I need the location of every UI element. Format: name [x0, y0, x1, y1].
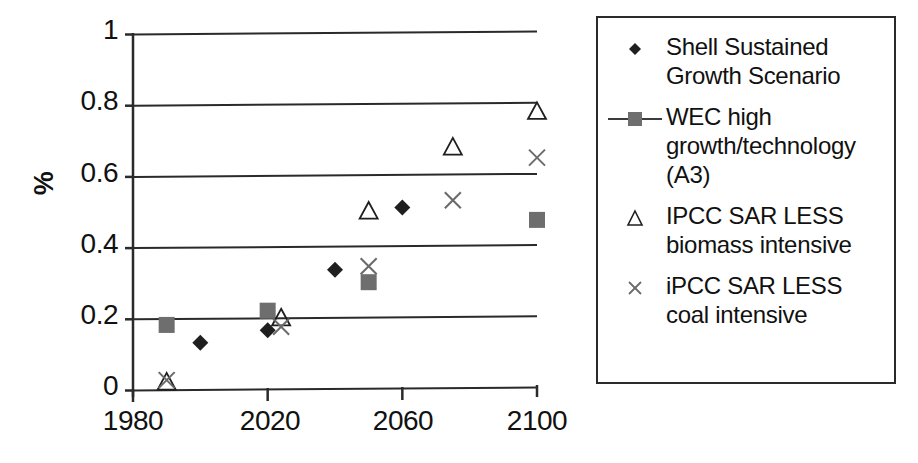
plot-area: % 1 0.8 0.6 0.4 0.2 0 1980 2020 2060 210… [0, 0, 580, 463]
data-point-square [529, 212, 545, 228]
x-tick-label-2020: 2020 [215, 405, 325, 437]
cross-marker-icon [604, 273, 666, 303]
data-point-triangle [528, 102, 546, 119]
gridlines [133, 32, 537, 391]
data-point-triangle [360, 202, 378, 219]
legend-label-ipcc-coal: iPCC SAR LESS coal intensive [666, 271, 888, 329]
gridline [133, 103, 537, 106]
legend-item-ipcc-biomass[interactable]: IPCC SAR LESS biomass intensive [604, 201, 888, 259]
x-tick-label-2100: 2100 [482, 405, 592, 437]
y-tick-label-0: 0 [8, 370, 118, 402]
y-tick-label-1: 1 [8, 14, 118, 46]
x-tick-label-1980: 1980 [78, 405, 188, 437]
data-point-square [260, 303, 276, 319]
chart-legend: Shell Sustained Growth Scenario WEC high… [596, 16, 896, 384]
legend-label-shell: Shell Sustained Growth Scenario [666, 32, 888, 90]
data-point-triangle [444, 138, 462, 155]
square-line-marker-icon [604, 104, 666, 134]
y-tick-label-0.8: 0.8 [8, 85, 118, 117]
triangle-marker-icon [604, 203, 666, 233]
data-point-cross [529, 150, 545, 166]
data-point-diamond [394, 199, 410, 215]
x-tick-label-2060: 2060 [348, 405, 458, 437]
legend-item-wec[interactable]: WEC high growth/technology (A3) [604, 102, 888, 189]
legend-item-shell[interactable]: Shell Sustained Growth Scenario [604, 32, 888, 90]
gridline [133, 32, 537, 35]
data-point-cross [361, 258, 377, 274]
data-point-cross [445, 192, 461, 208]
data-point-diamond [327, 262, 343, 278]
legend-label-ipcc-biomass: IPCC SAR LESS biomass intensive [666, 201, 888, 259]
chart-figure: % 1 0.8 0.6 0.4 0.2 0 1980 2020 2060 210… [0, 0, 918, 463]
data-point-cross [273, 319, 289, 335]
diamond-marker-icon [604, 34, 666, 64]
data-point-diamond [192, 335, 208, 351]
data-point-square [159, 317, 175, 333]
gridline [133, 245, 537, 248]
legend-item-ipcc-coal[interactable]: iPCC SAR LESS coal intensive [604, 271, 888, 329]
data-point-square [361, 274, 377, 290]
gridline [133, 316, 537, 319]
y-tick-label-0.6: 0.6 [8, 157, 118, 189]
y-tick-label-0.4: 0.4 [8, 228, 118, 260]
y-tick-label-0.2: 0.2 [8, 299, 118, 331]
legend-label-wec: WEC high growth/technology (A3) [666, 102, 888, 189]
gridline [133, 174, 537, 177]
gridline [133, 388, 537, 391]
